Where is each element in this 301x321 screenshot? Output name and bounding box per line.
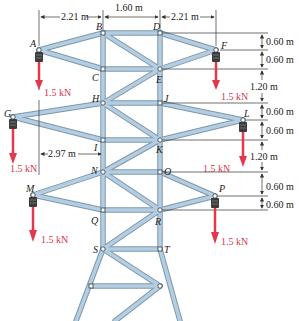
joint-label-n: N	[90, 165, 99, 176]
joint-label-f: F	[220, 40, 228, 51]
joint-label-h: H	[91, 93, 100, 104]
load-label-p: 1.5 kN	[221, 236, 248, 247]
load-label-f: 1.5 kN	[221, 91, 248, 102]
load-label-l: 1.5 kN	[203, 163, 230, 174]
joint-label-g: G	[4, 108, 11, 119]
joint-label-s: S	[93, 244, 98, 255]
down-arrow-icon	[239, 132, 247, 167]
joint-label-t: T	[164, 244, 171, 255]
insulator-icon	[239, 122, 247, 132]
dim-right-4: 0.60 m	[266, 125, 294, 136]
insulator-icon	[211, 198, 219, 208]
joint-label-i: I	[93, 142, 98, 153]
joint-label-a: A	[29, 38, 37, 49]
insulator-icon	[29, 197, 37, 207]
joint-label-p: P	[218, 183, 225, 194]
load-label-a: 1.5 kN	[44, 87, 71, 98]
dim-right-0: 0.60 m	[266, 36, 294, 47]
dim-top-left: 2.21 m	[61, 11, 89, 22]
load-label-m: 1.5 kN	[41, 234, 68, 245]
insulator-icon	[35, 52, 43, 62]
joint-label-r: R	[154, 216, 161, 227]
down-arrow-icon	[212, 62, 220, 90]
joint-label-q: Q	[91, 215, 99, 226]
dim-top-right: 2.21 m	[171, 11, 199, 22]
down-arrow-icon	[35, 62, 43, 90]
joint-label-d: D	[152, 21, 161, 32]
dim-g-arm: 2.97 m	[48, 148, 76, 159]
down-arrow-icon	[211, 208, 219, 244]
dim-right-6: 0.60 m	[266, 181, 294, 192]
insulator-icon	[212, 52, 220, 62]
dim-right-5: 1.20 m	[250, 151, 278, 162]
dim-right-1: 0.60 m	[266, 54, 294, 65]
load-label-g: 1.5 kN	[10, 163, 37, 174]
insulator-icon	[9, 119, 17, 129]
joint-label-l: L	[243, 108, 250, 119]
joint-label-j: J	[164, 93, 169, 104]
dim-right-7: 0.60 m	[266, 199, 294, 210]
down-arrow-icon	[9, 129, 17, 164]
joint-label-o: O	[164, 166, 171, 177]
joint-label-b: B	[96, 21, 102, 32]
dim-top-middle: 1.60 m	[115, 2, 143, 13]
truss-diagram: 1.5 kN 1.5 kN 1.5 kN 1.5 kN 1.5 kN 1.5 k…	[0, 0, 301, 321]
joint-label-e: E	[155, 74, 162, 85]
down-arrow-icon	[29, 207, 37, 242]
dim-right-3: 0.60 m	[266, 106, 294, 117]
joint-label-c: C	[92, 72, 99, 83]
joint-label-m: M	[25, 183, 35, 194]
joint-label-k: K	[155, 144, 164, 155]
truss-figure: 1.5 kN 1.5 kN 1.5 kN 1.5 kN 1.5 kN 1.5 k…	[0, 0, 301, 321]
truss-members	[13, 33, 243, 321]
dim-right-2: 1.20 m	[250, 81, 278, 92]
